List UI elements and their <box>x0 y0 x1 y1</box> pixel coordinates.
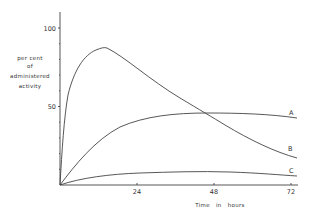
curve-label-b: B <box>288 145 292 153</box>
x-axis-label: Time in hours <box>194 202 245 208</box>
activity-time-chart: 100 50 24 48 72 per cent of administered… <box>0 0 309 216</box>
x-tick-label-24: 24 <box>133 188 141 196</box>
curve-label-c: C <box>289 167 294 175</box>
y-axis-label-line4: activity <box>19 83 42 90</box>
curve-b <box>60 48 297 185</box>
y-axis-label-line2: of <box>27 63 34 69</box>
curve-label-a: A <box>289 109 294 117</box>
y-axis-label-line1: per cent <box>17 55 43 62</box>
x-tick-label-48: 48 <box>210 188 218 196</box>
y-tick-label-100: 100 <box>44 25 56 33</box>
y-tick-label-50: 50 <box>48 103 56 111</box>
x-tick-label-72: 72 <box>287 188 295 196</box>
y-axis-label-line3: administered <box>10 73 50 79</box>
curve-c <box>60 172 297 185</box>
curve-a <box>60 113 297 185</box>
